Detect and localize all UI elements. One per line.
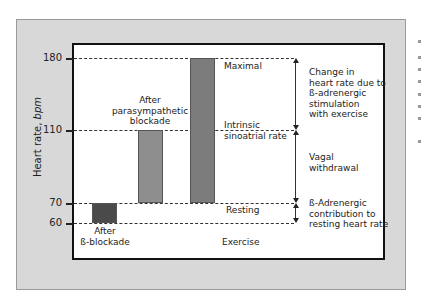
level-label-intrinsic-line2: sinoatrial rate [224, 131, 287, 142]
arrow-line-beta-stim [295, 62, 296, 126]
level-label-resting: Resting [226, 205, 260, 216]
bar-parasympathetic-blockade [138, 130, 163, 203]
level-label-maximal: Maximal [224, 61, 262, 72]
annotation-line: stimulation [309, 99, 386, 110]
annotation-line: withdrawal [309, 163, 358, 174]
cropped-text-fragment [418, 117, 421, 120]
tick-label-70: 70 [36, 197, 62, 208]
cropped-text-fragment [418, 140, 421, 143]
label-beta-blockade-line1: After [72, 226, 138, 237]
arrow-line-vagal [295, 134, 296, 198]
arrow-line-beta-rest [295, 207, 296, 218]
arrow-up-icon [293, 58, 299, 63]
label-parasympathetic-blockade: After parasympathetic blockade [110, 95, 190, 127]
cropped-text-fragment [418, 105, 421, 108]
tick-label-110: 110 [36, 124, 62, 135]
cropped-text-fragment [418, 68, 421, 71]
cropped-text-fragment [418, 56, 421, 59]
level-label-intrinsic-line1: Intrinsic [224, 120, 287, 131]
label-beta-blockade-line2: ß-blockade [72, 237, 138, 248]
reference-line-180 [74, 58, 294, 59]
annotation-line: Change in [309, 67, 386, 78]
annotation-line: with exercise [309, 109, 386, 120]
cropped-text-fragment [418, 40, 421, 43]
tick-mark-70 [66, 203, 73, 205]
annotation-vagal-withdrawal: Vagal withdrawal [309, 152, 358, 173]
annotation-beta-resting: ß-Adrenergic contribution to resting hea… [309, 198, 388, 230]
annotation-line: ß-adrenergic [309, 88, 386, 99]
level-label-intrinsic: Intrinsic sinoatrial rate [224, 120, 287, 141]
y-axis-unit: bpm [32, 97, 43, 119]
label-beta-blockade: After ß-blockade [72, 226, 138, 247]
cropped-text-fragment [418, 93, 421, 96]
annotation-line: ß-Adrenergic [309, 198, 388, 209]
arrow-up-icon [293, 130, 299, 135]
annotation-line: heart rate due to [309, 78, 386, 89]
annotation-beta-stimulation: Change in heart rate due to ß-adrenergic… [309, 67, 386, 120]
tick-mark-110 [66, 130, 73, 132]
annotation-line: contribution to [309, 209, 388, 220]
reference-line-60 [74, 223, 294, 224]
tick-mark-60 [66, 223, 73, 225]
annotation-line: Vagal [309, 152, 358, 163]
tick-label-180: 180 [36, 52, 62, 63]
y-axis-label: Heart rate, bpm [32, 97, 43, 177]
label-parasympathetic-line2: parasympathetic [110, 106, 190, 117]
label-parasympathetic-line3: blockade [110, 116, 190, 127]
annotation-line: resting heart rate [309, 219, 388, 230]
tick-label-60: 60 [36, 217, 62, 228]
cropped-text-fragment [418, 80, 421, 83]
label-exercise: Exercise [222, 237, 259, 248]
tick-mark-180 [66, 58, 73, 60]
label-parasympathetic-line1: After [110, 95, 190, 106]
arrow-down-icon [293, 218, 299, 223]
arrow-up-icon [293, 203, 299, 208]
bar-beta-blockade [92, 203, 117, 223]
bar-exercise [190, 58, 215, 203]
